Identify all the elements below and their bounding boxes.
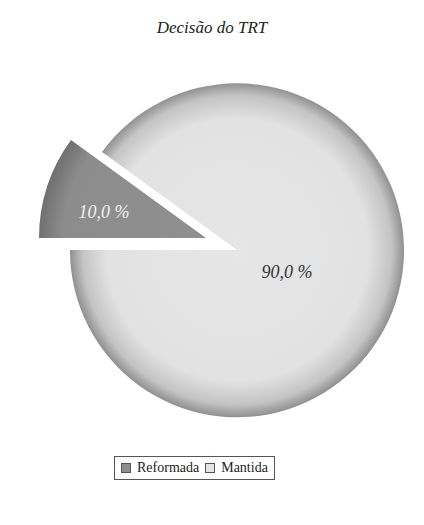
swatch-reformada [121, 463, 131, 473]
chart-legend: Reformada Mantida [114, 456, 275, 480]
slice-mantida [70, 83, 404, 417]
legend-item-mantida: Mantida [205, 460, 268, 476]
pie-chart: 10,0 % 90,0 % [0, 0, 424, 525]
legend-label-mantida: Mantida [221, 460, 268, 476]
legend-label-reformada: Reformada [137, 460, 199, 476]
label-mantida: 90,0 % [262, 262, 313, 282]
swatch-mantida [205, 463, 215, 473]
legend-item-reformada: Reformada [121, 460, 199, 476]
label-reformada: 10,0 % [79, 202, 130, 222]
